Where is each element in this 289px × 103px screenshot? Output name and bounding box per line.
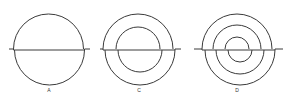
figure-a-diameter-line [9, 49, 90, 50]
figure-d-ring-3-lower-arc [228, 50, 252, 62]
figure-c-ring-2-lower-arc [118, 50, 162, 72]
figure-c-ring-1-lower-arc [105, 50, 175, 85]
diagram-canvas [0, 0, 289, 103]
figure-a-ring-1-lower-arc [15, 50, 85, 85]
figure-label-d: D [235, 87, 239, 93]
figure-d-ring-3-upper-arc [225, 37, 249, 49]
figure-d-ring-1-lower-arc [205, 50, 275, 85]
figure-label-c: C [137, 87, 141, 93]
figure-c-ring-2-upper-arc [116, 27, 160, 49]
figure-d-ring-1-upper-arc [202, 14, 272, 49]
figure-d-diameter-line [194, 49, 283, 50]
figure-a-ring-1-upper-arc [14, 14, 84, 49]
figure-c-diameter-line [100, 49, 181, 50]
figure-label-a: A [47, 87, 50, 93]
figure-c-ring-1-upper-arc [103, 14, 173, 49]
